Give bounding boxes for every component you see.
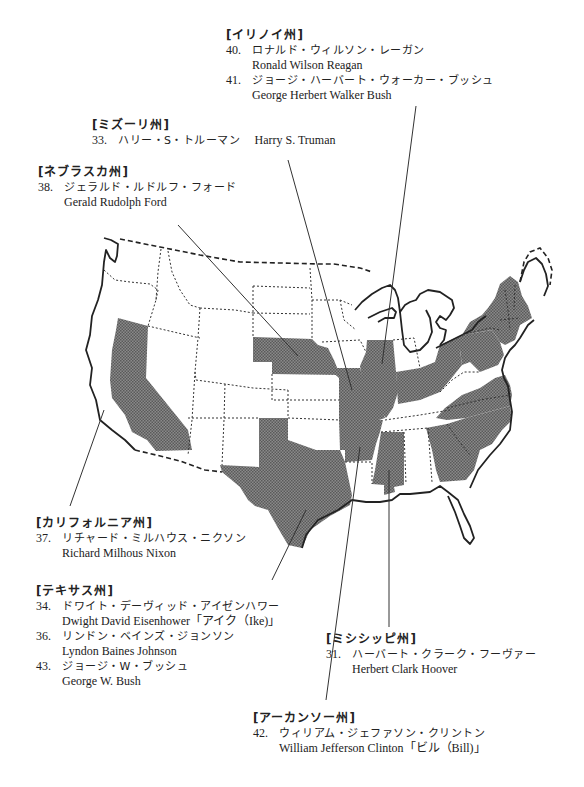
- president-name-en: Lyndon Baines Johnson: [36, 644, 280, 659]
- president-entry: 37.リチャード・ミルハウス・ニクソン: [36, 531, 246, 546]
- president-name-jp: ドワイト・デーヴィッド・アイゼンハワー: [62, 600, 280, 613]
- state-nebraska: [253, 337, 340, 375]
- president-number: 37.: [36, 531, 62, 546]
- president-name-en: Harry S. Truman: [254, 133, 335, 147]
- president-name-en: Dwight David Eisenhower「アイク（Ike)」: [36, 614, 280, 629]
- president-name-jp: リチャード・ミルハウス・ニクソン: [62, 532, 246, 545]
- president-name-jp: リンドン・ベインズ・ジョンソン: [62, 630, 235, 643]
- label-california: [カリフォルニア州] 37.リチャード・ミルハウス・ニクソン Richard M…: [36, 516, 246, 561]
- president-entry: 40.ロナルド・ウィルソン・レーガン: [226, 43, 494, 58]
- leader-illinois-reagan: [382, 106, 416, 364]
- state-california: [110, 318, 192, 451]
- president-name-jp: ジョージ・ハーバート・ウォーカー・ブッシュ: [252, 74, 494, 87]
- president-number: 40.: [226, 43, 252, 58]
- label-mississippi: [ミシシッピ州] 31.ハーバート・クラーク・フーヴァー Herbert Cla…: [326, 632, 536, 677]
- president-name-jp: ハーバート・クラーク・フーヴァー: [352, 648, 536, 661]
- state-name-arkansas: [アーカンソー州]: [253, 711, 486, 726]
- state-arkansas: [339, 420, 383, 462]
- leader-nebraska-ford: [178, 225, 298, 356]
- label-illinois: [イリノイ州] 40.ロナルド・ウィルソン・レーガン Ronald Wilson…: [226, 28, 494, 103]
- president-number: 41.: [226, 73, 252, 88]
- president-entry: 42.ウィリアム・ジェファソン・クリントン: [253, 726, 486, 741]
- highlighted-states: [110, 276, 532, 548]
- state-name-illinois: [イリノイ州]: [226, 28, 494, 43]
- state-name-missouri: [ミズーリ州]: [92, 118, 336, 133]
- label-nebraska: [ネブラスカ州] 38.ジェラルド・ルドルフ・フォード Gerald Rudol…: [38, 165, 237, 210]
- president-entry: 31.ハーバート・クラーク・フーヴァー: [326, 647, 536, 662]
- president-name-en: William Jefferson Clinton「ビル（Bill)」: [253, 741, 486, 756]
- state-ohio-kentucky: [396, 342, 462, 404]
- president-entry: 41.ジョージ・ハーバート・ウォーカー・ブッシュ: [226, 73, 494, 88]
- president-name-jp: ウィリアム・ジェファソン・クリントン: [279, 727, 485, 740]
- label-missouri: [ミズーリ州] 33.ハリー・S・トルーマンHarry S. Truman: [92, 118, 336, 148]
- president-name-en: Richard Milhous Nixon: [36, 546, 246, 561]
- president-number: 42.: [253, 726, 279, 741]
- president-entry: 43.ジョージ・W・ブッシュ: [36, 659, 280, 674]
- state-name-texas: [テキサス州]: [36, 584, 280, 599]
- president-name-jp: ハリー・S・トルーマン: [118, 134, 240, 147]
- leader-california-nixon: [70, 410, 104, 506]
- president-name-en: Gerald Rudolph Ford: [38, 195, 237, 210]
- label-texas: [テキサス州] 34.ドワイト・デーヴィッド・アイゼンハワー Dwight Da…: [36, 584, 280, 689]
- state-name-nebraska: [ネブラスカ州]: [38, 165, 237, 180]
- president-number: 31.: [326, 647, 352, 662]
- president-entry: 33.ハリー・S・トルーマンHarry S. Truman: [92, 133, 336, 148]
- label-arkansas: [アーカンソー州] 42.ウィリアム・ジェファソン・クリントン William …: [253, 711, 486, 756]
- president-number: 33.: [92, 133, 118, 148]
- president-name-en: Ronald Wilson Reagan: [226, 58, 494, 73]
- president-name-en: George W. Bush: [36, 674, 280, 689]
- president-name-en: Herbert Clark Hoover: [326, 662, 536, 677]
- state-name-mississippi: [ミシシッピ州]: [326, 632, 536, 647]
- president-name-jp: ジョージ・W・ブッシュ: [62, 660, 188, 673]
- president-name-jp: ロナルド・ウィルソン・レーガン: [252, 44, 425, 57]
- president-entry: 36.リンドン・ベインズ・ジョンソン: [36, 629, 280, 644]
- president-entry: 38.ジェラルド・ルドルフ・フォード: [38, 180, 237, 195]
- president-number: 34.: [36, 599, 62, 614]
- president-number: 43.: [36, 659, 62, 674]
- president-name-en: George Herbert Walker Bush: [226, 88, 494, 103]
- president-number: 38.: [38, 180, 64, 195]
- state-name-california: [カリフォルニア州]: [36, 516, 246, 531]
- president-entry: 34.ドワイト・デーヴィッド・アイゼンハワー: [36, 599, 280, 614]
- president-number: 36.: [36, 629, 62, 644]
- president-name-jp: ジェラルド・ルドルフ・フォード: [64, 181, 237, 194]
